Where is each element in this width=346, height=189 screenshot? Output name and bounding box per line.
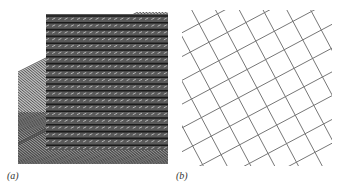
panel-b-label: (b) — [176, 170, 188, 181]
panel-a-label: (a) — [7, 170, 19, 181]
dense-lattice-graphic — [18, 12, 168, 164]
rotated-grid-graphic — [182, 10, 332, 166]
panel-b-rotated-grid — [182, 10, 332, 166]
panel-a-dense-lattice — [18, 12, 168, 164]
